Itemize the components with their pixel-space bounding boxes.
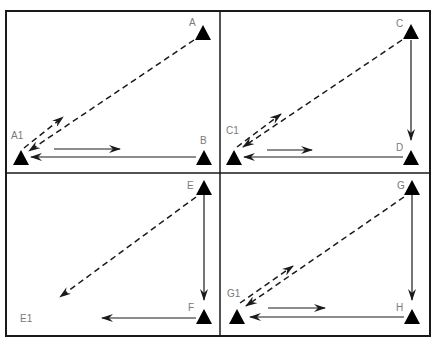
- label-c1: C1: [226, 125, 239, 136]
- cone-marker-a: [195, 25, 211, 40]
- cone-marker-e: [196, 180, 212, 195]
- label-e: E: [187, 180, 194, 191]
- panel-1: A A1 B: [11, 17, 212, 165]
- label-f: F: [188, 302, 194, 313]
- label-a: A: [189, 17, 196, 28]
- dashed-pass-c-to-c1: [243, 40, 402, 147]
- dashed-pass-e-to-e1: [60, 197, 196, 297]
- cone-marker-c: [403, 24, 419, 39]
- cone-marker-g1: [229, 309, 245, 324]
- cone-marker-f: [196, 309, 212, 324]
- dashed-run-c1-out: [237, 114, 281, 147]
- cone-marker-d: [403, 150, 419, 165]
- panel-3: E F E1: [20, 180, 212, 324]
- label-c: C: [396, 18, 403, 29]
- panel-2: C C1 D: [226, 18, 419, 165]
- label-e1: E1: [20, 313, 33, 324]
- panel-4: G G1 H: [227, 180, 420, 324]
- label-g: G: [397, 180, 405, 191]
- cone-marker-c1: [226, 150, 242, 165]
- label-h: H: [396, 302, 403, 313]
- dashed-run-g1-out: [240, 266, 293, 303]
- label-g1: G1: [227, 288, 241, 299]
- dashed-pass-a-to-a1: [29, 40, 194, 151]
- dashed-pass-g-to-g1: [246, 197, 404, 306]
- cone-marker-a1: [13, 150, 29, 165]
- cone-marker-b: [196, 150, 212, 165]
- cone-marker-h: [404, 309, 420, 324]
- label-d: D: [396, 142, 403, 153]
- label-a1: A1: [11, 130, 24, 141]
- drill-diagram: A A1 B C C1 D E F E1 G G1: [0, 0, 437, 344]
- label-b: B: [200, 135, 207, 146]
- cone-marker-g: [404, 180, 420, 195]
